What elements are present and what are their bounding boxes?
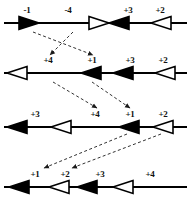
gene-label: +3: [30, 110, 39, 119]
arrow-plus-2: [152, 119, 174, 135]
arrow-plus-1: [118, 119, 140, 135]
gene-label: +1: [30, 170, 39, 179]
gene-label: +4: [90, 110, 99, 119]
gene-label: -4: [65, 6, 72, 15]
reversal-diagram: -1-4+3+2+4+1+3+2+3+4+1+2+1+2+3+4: [0, 0, 189, 202]
arrow-plus-4: [6, 65, 28, 81]
arrow-plus-3: [6, 119, 28, 135]
gene-label: +4: [43, 56, 52, 65]
arrow-plus-3: [108, 15, 130, 31]
arrow-plus-2: [154, 65, 176, 81]
gene-label: +4: [145, 170, 154, 179]
row-1: -1-4+3+2: [0, 8, 189, 38]
arrow-plus-3: [112, 65, 134, 81]
gene-label: +2: [158, 56, 167, 65]
arrow-plus-1: [80, 65, 102, 81]
gene-label: +2: [158, 110, 167, 119]
arrow-minus-1: [18, 15, 40, 31]
row-4: +1+2+3+4: [0, 172, 189, 202]
gene-label: +2: [155, 6, 164, 15]
arrow-plus-3: [76, 179, 98, 195]
arrow-plus-2: [150, 15, 172, 31]
arrow-plus-4: [112, 179, 134, 195]
gene-label: +3: [95, 170, 104, 179]
row-2: +4+1+3+2: [0, 58, 189, 88]
gene-label: +2: [60, 170, 69, 179]
gene-label: -1: [24, 6, 31, 15]
arrow-plus-1: [8, 179, 30, 195]
arrow-plus-4: [50, 119, 72, 135]
row-3: +3+4+1+2: [0, 112, 189, 142]
dashed-arrows-group: [33, 32, 161, 168]
gene-label: +3: [125, 56, 134, 65]
gene-label: +1: [125, 110, 134, 119]
gene-label: +1: [87, 56, 96, 65]
gene-label: +3: [123, 6, 132, 15]
arrow-minus-4: [88, 15, 110, 31]
arrow-plus-2: [48, 179, 70, 195]
